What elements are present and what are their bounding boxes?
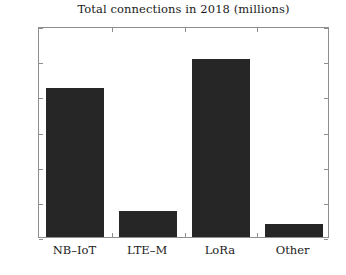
bar-lte-m xyxy=(119,211,177,237)
x-tick-mark-top xyxy=(257,28,258,32)
x-tick-mark xyxy=(257,233,258,237)
plot-area xyxy=(38,27,329,238)
y-tick-mark-right xyxy=(324,28,328,29)
bar-nb-iot xyxy=(46,88,104,237)
x-tick-mark-top xyxy=(112,28,113,32)
y-tick-mark xyxy=(39,134,43,135)
y-tick-mark xyxy=(39,239,43,240)
y-tick-mark xyxy=(39,63,43,64)
y-tick-mark-right xyxy=(324,98,328,99)
chart-title: Total connections in 2018 (millions) xyxy=(38,2,329,16)
bar-other xyxy=(265,224,323,237)
bar-chart-figure: Total connections in 2018 (millions) 010… xyxy=(0,0,346,275)
x-tick-mark xyxy=(112,233,113,237)
y-tick-mark xyxy=(39,28,43,29)
y-tick-mark-right xyxy=(324,169,328,170)
bars-layer xyxy=(39,28,328,237)
y-tick-mark xyxy=(39,204,43,205)
y-tick-mark-right xyxy=(324,239,328,240)
y-tick-mark-right xyxy=(324,134,328,135)
x-axis-tick-label: Other xyxy=(276,243,310,257)
x-axis-tick-label: LTE–M xyxy=(127,243,167,257)
x-tick-mark-top xyxy=(185,28,186,32)
x-axis-tick-label: LoRa xyxy=(205,243,235,257)
y-tick-mark-right xyxy=(324,63,328,64)
y-tick-mark-right xyxy=(324,204,328,205)
bar-lora xyxy=(192,59,250,237)
y-tick-mark xyxy=(39,98,43,99)
x-axis-tick-label: NB–IoT xyxy=(53,243,96,257)
x-tick-mark xyxy=(185,233,186,237)
y-tick-mark xyxy=(39,169,43,170)
